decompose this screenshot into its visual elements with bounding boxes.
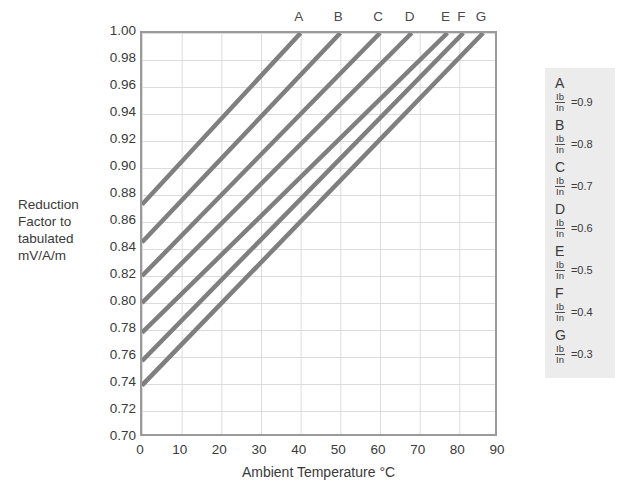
legend-item-f: FIbIn=0.4 xyxy=(545,286,615,328)
legend-ratio-row: IbIn=0.9 xyxy=(555,92,615,113)
legend-ratio-row: IbIn=0.3 xyxy=(555,344,615,365)
series-label-g: G xyxy=(469,9,493,24)
legend-fraction-denominator: In xyxy=(555,271,565,281)
legend-value: =0.8 xyxy=(571,139,593,150)
x-tick-label: 70 xyxy=(398,443,438,457)
series-label-a: A xyxy=(287,9,311,24)
series-top-labels: ABCDEFG xyxy=(0,9,628,29)
legend-ratio-row: IbIn=0.8 xyxy=(555,134,615,155)
legend-fraction: IbIn xyxy=(555,302,565,323)
y-tick-label: 0.74 xyxy=(94,375,136,389)
legend-ratio-row: IbIn=0.7 xyxy=(555,176,615,197)
y-tick-label: 0.88 xyxy=(94,186,136,200)
legend-key: G xyxy=(555,328,615,343)
legend-fraction: IbIn xyxy=(555,92,565,113)
legend-fraction-denominator: In xyxy=(555,187,565,197)
y-axis-tick-labels: 1.000.980.960.940.920.900.880.860.840.82… xyxy=(92,0,136,490)
legend-ratio-row: IbIn=0.5 xyxy=(555,260,615,281)
legend-fraction-denominator: In xyxy=(555,229,565,239)
legend-key: A xyxy=(555,76,615,91)
y-axis-title-line: Factor to xyxy=(18,213,98,230)
y-axis-title-line: Reduction xyxy=(18,196,98,213)
legend-fraction-denominator: In xyxy=(555,313,565,323)
y-tick-label: 0.78 xyxy=(94,321,136,335)
y-tick-label: 0.72 xyxy=(94,402,136,416)
legend-value: =0.7 xyxy=(571,181,593,192)
legend-ratio-row: IbIn=0.6 xyxy=(555,218,615,239)
x-axis-tick-labels: 0102030405060708090 xyxy=(0,443,628,463)
legend-item-c: CIbIn=0.7 xyxy=(545,160,615,202)
legend-fraction: IbIn xyxy=(555,260,565,281)
plot-area xyxy=(140,31,497,436)
legend-item-g: GIbIn=0.3 xyxy=(545,328,615,370)
legend-fraction: IbIn xyxy=(555,218,565,239)
legend-fraction-denominator: In xyxy=(555,145,565,155)
legend-key: D xyxy=(555,202,615,217)
series-label-b: B xyxy=(326,9,350,24)
y-tick-label: 0.82 xyxy=(94,267,136,281)
legend-key: E xyxy=(555,244,615,259)
y-tick-label: 0.70 xyxy=(94,429,136,443)
x-tick-label: 90 xyxy=(477,443,517,457)
y-tick-label: 0.86 xyxy=(94,213,136,227)
chart-page: ReductionFactor totabulatedmV/A/m 1.000.… xyxy=(0,0,628,490)
y-tick-label: 0.94 xyxy=(94,105,136,119)
series-label-c: C xyxy=(366,9,390,24)
legend-fraction-denominator: In xyxy=(555,103,565,113)
series-label-d: D xyxy=(398,9,422,24)
legend-value: =0.4 xyxy=(571,307,593,318)
legend-fraction: IbIn xyxy=(555,344,565,365)
legend-panel: AIbIn=0.9BIbIn=0.8CIbIn=0.7DIbIn=0.6EIbI… xyxy=(545,68,615,378)
y-tick-label: 0.96 xyxy=(94,78,136,92)
legend-item-e: EIbIn=0.5 xyxy=(545,244,615,286)
y-tick-label: 0.98 xyxy=(94,51,136,65)
x-tick-label: 50 xyxy=(318,443,358,457)
x-tick-label: 0 xyxy=(120,443,160,457)
legend-item-d: DIbIn=0.6 xyxy=(545,202,615,244)
legend-key: C xyxy=(555,160,615,175)
legend-value: =0.3 xyxy=(571,349,593,360)
y-tick-label: 0.76 xyxy=(94,348,136,362)
y-tick-label: 0.84 xyxy=(94,240,136,254)
x-tick-label: 40 xyxy=(279,443,319,457)
legend-value: =0.6 xyxy=(571,223,593,234)
legend-fraction: IbIn xyxy=(555,134,565,155)
legend-key: F xyxy=(555,286,615,301)
x-axis-title: Ambient Temperature °C xyxy=(140,464,497,480)
x-tick-label: 10 xyxy=(160,443,200,457)
legend-fraction-denominator: In xyxy=(555,355,565,365)
y-axis-title: ReductionFactor totabulatedmV/A/m xyxy=(18,196,98,264)
legend-fraction: IbIn xyxy=(555,176,565,197)
y-tick-label: 0.92 xyxy=(94,132,136,146)
data-lines xyxy=(142,33,497,436)
legend-ratio-row: IbIn=0.4 xyxy=(555,302,615,323)
y-axis-title-line: mV/A/m xyxy=(18,247,98,264)
legend-key: B xyxy=(555,118,615,133)
x-tick-label: 30 xyxy=(239,443,279,457)
legend-value: =0.5 xyxy=(571,265,593,276)
legend-value: =0.9 xyxy=(571,97,593,108)
y-axis-title-line: tabulated xyxy=(18,230,98,247)
legend-item-b: BIbIn=0.8 xyxy=(545,118,615,160)
x-tick-label: 20 xyxy=(199,443,239,457)
x-tick-label: 80 xyxy=(437,443,477,457)
y-tick-label: 0.90 xyxy=(94,159,136,173)
x-tick-label: 60 xyxy=(358,443,398,457)
legend-item-a: AIbIn=0.9 xyxy=(545,76,615,118)
y-tick-label: 0.80 xyxy=(94,294,136,308)
